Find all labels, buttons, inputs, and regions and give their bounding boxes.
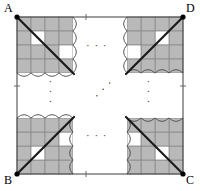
vertex-label-a: A [4,2,13,14]
grid-cell [17,132,31,146]
grid-cell [59,45,73,59]
grid-cell [169,132,183,146]
tear-mask [73,11,83,79]
grid-cell [155,45,169,59]
grid-cell [127,17,141,31]
grid-cell [169,31,183,45]
tear-mask [121,108,189,118]
grid-cell [141,146,155,160]
grid-cell [155,132,169,146]
ellipsis-bottom: · · · [86,130,108,141]
grid-cell [127,31,141,45]
grid-cell [45,31,59,45]
grid-cell [17,59,31,73]
grid-cell [31,160,45,174]
vertex-dot-a [14,14,19,19]
tear-mask [121,73,189,83]
tear-mask [11,108,79,118]
grid-cell [155,160,169,174]
grid-cell [31,45,45,59]
grid-cell [141,17,155,31]
grid-cell [59,31,73,45]
vertex-label-c: C [186,174,194,186]
grid-cell [31,17,45,31]
grid-cell [169,146,183,160]
grid-cell [17,45,31,59]
tear-mask [117,11,127,79]
grid-cell [45,59,59,73]
vertex-dot-c [180,171,185,176]
tear-mask [73,112,83,180]
grid-cell [127,45,141,59]
grid-cell [59,17,73,31]
grid-cell [31,118,45,132]
grid-cell [141,160,155,174]
grid-cell [17,146,31,160]
grid-cell [31,59,45,73]
geometric-figure: ADBC · · ·· · ·· · ·· · ·· · · [0,0,200,191]
tear-mask [117,112,127,180]
grid-cell [155,17,169,31]
grid-cell [17,31,31,45]
vertex-dot-d [180,14,185,19]
ellipsis-right: · · · [143,80,153,105]
ellipsis-top: · · · [86,40,108,51]
grid-cell [45,146,59,160]
grid-cell [17,118,31,132]
grid-cell [141,31,155,45]
vertex-label-b: B [4,174,12,186]
vertex-dot-b [14,171,19,176]
vertex-label-d: D [186,2,195,14]
ellipsis-left: · · · [45,80,55,105]
grid-cell [45,17,59,31]
grid-cell [45,118,59,132]
grid-cell [45,160,59,174]
grid-cell [31,132,45,146]
grid-cell [169,45,183,59]
